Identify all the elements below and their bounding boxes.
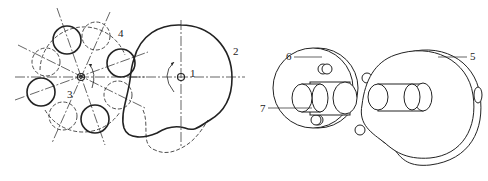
left-schematic [15, 8, 245, 153]
rollers [27, 26, 135, 133]
cam-ghost-profile [143, 110, 208, 153]
label-2: 2 [233, 45, 239, 57]
cam-shaft-end [368, 84, 388, 110]
rotation-arrow-star [89, 64, 94, 88]
label-4: 4 [118, 27, 124, 39]
shaft-end-inner [333, 82, 357, 114]
cam-profile [123, 25, 232, 137]
label-5: 5 [470, 50, 476, 62]
label-7: 7 [260, 102, 266, 114]
mechanism-diagram: 1 2 3 4 5 6 7 [0, 0, 488, 181]
right-isometric [273, 48, 482, 165]
label-6: 6 [286, 50, 292, 62]
label-1: 1 [190, 67, 196, 79]
label-3: 3 [67, 88, 73, 100]
